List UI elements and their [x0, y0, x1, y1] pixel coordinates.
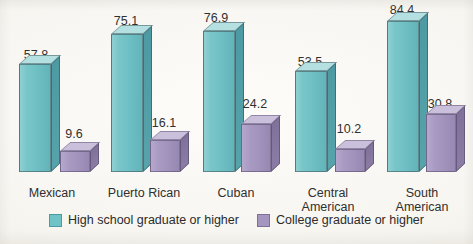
bar-college-central-american [335, 149, 365, 172]
bar-front-face [111, 34, 143, 172]
bar-group-puerto-rican: 75.1 16.1 Puerto Rican [100, 0, 186, 186]
legend-swatch-icon-college [257, 214, 270, 227]
value-label-col-3: 10.2 [329, 122, 369, 136]
bar-hs-puerto-rican [111, 34, 143, 172]
bar-hs-cuban [203, 31, 235, 172]
bar-side-face [180, 132, 189, 172]
plot-area: 57.8 9.6 Mexican 75.1 16.1 [0, 0, 473, 186]
legend-swatch-icon-high-school [49, 214, 62, 227]
bar-chart: 57.8 9.6 Mexican 75.1 16.1 [0, 0, 473, 244]
bar-side-face [271, 116, 280, 172]
legend-item-college[interactable]: College graduate or higher [257, 213, 424, 227]
bar-group-south-american: 84.4 30.8 South American [376, 0, 466, 186]
bar-front-face [426, 114, 456, 172]
value-label-col-0: 9.6 [56, 127, 92, 141]
bar-front-face [19, 64, 51, 172]
legend-label-college: College graduate or higher [276, 213, 424, 227]
bar-front-face [241, 124, 271, 172]
bar-group-central-american: 53.5 10.2 Central American [284, 0, 370, 186]
bar-front-face [335, 149, 365, 172]
legend-item-high-school[interactable]: High school graduate or higher [49, 213, 239, 227]
bar-front-face [295, 71, 327, 172]
category-label-cuban: Cuban [186, 186, 286, 200]
bar-side-face [51, 56, 60, 172]
legend-label-high-school: High school graduate or higher [68, 213, 239, 227]
bar-front-face [203, 31, 235, 172]
bar-college-mexican [60, 151, 90, 172]
bar-front-face [387, 21, 419, 172]
bar-front-face [150, 140, 180, 172]
bar-college-south-american [426, 114, 456, 172]
bar-college-puerto-rican [150, 140, 180, 172]
bar-hs-south-american [387, 21, 419, 172]
bar-front-face [60, 151, 90, 172]
value-label-col-1: 16.1 [144, 116, 184, 130]
bar-side-face [456, 106, 465, 172]
value-label-col-2: 24.2 [235, 97, 275, 111]
category-label-mexican: Mexican [2, 186, 102, 200]
bar-group-cuban: 76.9 24.2 Cuban [192, 0, 278, 186]
chart-legend: High school graduate or higher College g… [0, 208, 473, 232]
bar-hs-mexican [19, 64, 51, 172]
category-label-puerto-rican: Puerto Rican [92, 186, 196, 200]
bar-group-mexican: 57.8 9.6 Mexican [8, 0, 94, 186]
bar-college-cuban [241, 124, 271, 172]
bar-hs-central-american [295, 71, 327, 172]
